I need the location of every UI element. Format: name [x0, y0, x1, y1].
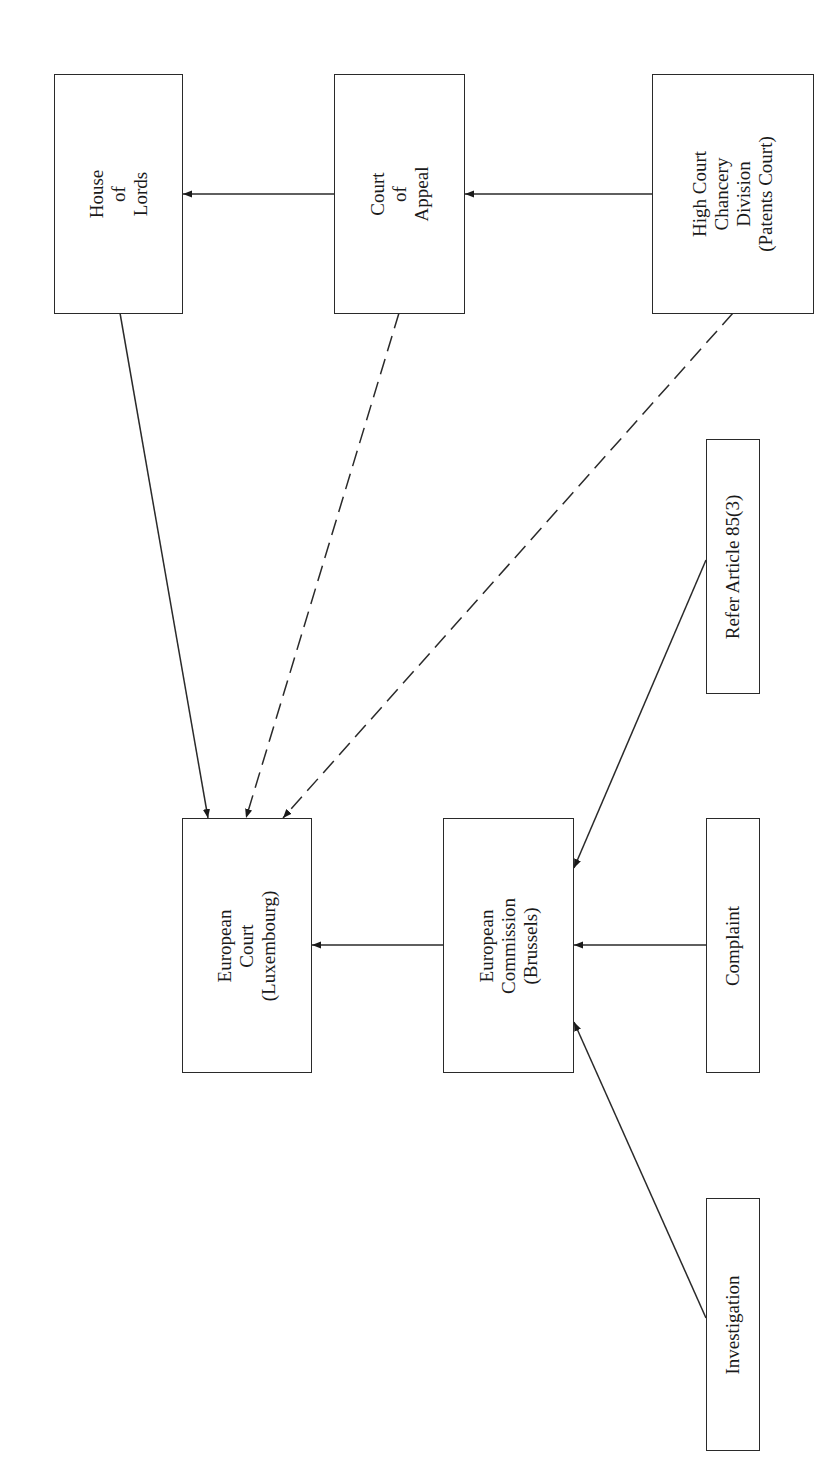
label-line: (Luxembourg): [258, 890, 280, 1000]
european-commission-label: European Commission (Brussels): [476, 897, 542, 993]
arrow-refer-article-to-european-commission: [574, 560, 706, 868]
label-line: of: [389, 167, 411, 222]
label-line: Lords: [130, 170, 152, 219]
label-line: (Brussels): [520, 897, 542, 993]
investigation-label: Investigation: [722, 1275, 744, 1374]
arrow-court-of-appeal-to-european-court: [246, 313, 399, 818]
refer-article-box: Refer Article 85(3): [706, 439, 760, 694]
court-hierarchy-diagram: House of Lords Court of Appeal High Cour…: [0, 0, 839, 1482]
house-of-lords-box: House of Lords: [54, 74, 183, 314]
european-court-box: European Court (Luxembourg): [182, 818, 312, 1073]
complaint-box: Complaint: [706, 818, 760, 1073]
label-line: (Patents Court): [755, 136, 777, 252]
complaint-label: Complaint: [722, 905, 744, 985]
label-line: Court: [236, 890, 258, 1000]
label-line: Court: [367, 167, 389, 222]
court-of-appeal-box: Court of Appeal: [334, 74, 465, 314]
european-commission-box: European Commission (Brussels): [443, 818, 574, 1073]
label-line: European: [214, 890, 236, 1000]
label-line: European: [476, 897, 498, 993]
label-line: Investigation: [722, 1275, 744, 1374]
european-court-label: European Court (Luxembourg): [214, 890, 280, 1000]
house-of-lords-label: House of Lords: [86, 170, 152, 219]
label-line: Chancery: [711, 136, 733, 252]
label-line: Appeal: [411, 167, 433, 222]
label-line: of: [108, 170, 130, 219]
label-line: Commission: [498, 897, 520, 993]
high-court-box: High Court Chancery Division (Patents Co…: [652, 74, 814, 314]
label-line: House: [86, 170, 108, 219]
label-line: Division: [733, 136, 755, 252]
arrow-high-court-to-european-court: [283, 313, 733, 818]
court-of-appeal-label: Court of Appeal: [367, 167, 433, 222]
arrow-house-of-lords-to-european-court: [120, 313, 208, 818]
label-line: Refer Article 85(3): [722, 494, 744, 639]
arrow-investigation-to-european-commission: [574, 1022, 706, 1318]
high-court-label: High Court Chancery Division (Patents Co…: [689, 136, 777, 252]
label-line: High Court: [689, 136, 711, 252]
investigation-box: Investigation: [706, 1198, 760, 1451]
label-line: Complaint: [722, 905, 744, 985]
refer-article-label: Refer Article 85(3): [722, 494, 744, 639]
